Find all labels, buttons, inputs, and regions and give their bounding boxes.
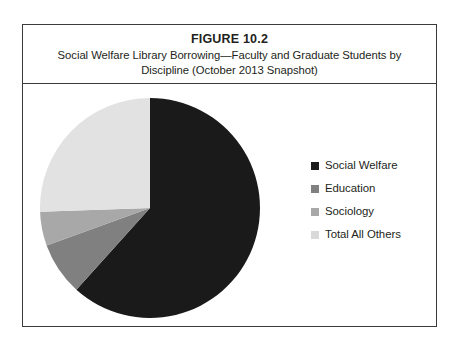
legend-item-label: Sociology	[325, 205, 374, 218]
pie-chart-svg	[37, 95, 263, 321]
chart-area: Social WelfareEducationSociologyTotal Al…	[23, 79, 436, 328]
figure-caption: Social Welfare Library Borrowing—Faculty…	[39, 48, 420, 77]
legend-item-label: Total All Others	[325, 228, 401, 241]
figure-title-block: FIGURE 10.2 Social Welfare Library Borro…	[23, 25, 436, 84]
legend-item-label: Education	[325, 182, 375, 195]
pie-chart	[37, 95, 263, 321]
legend-item: Education	[311, 182, 401, 195]
legend-item: Total All Others	[311, 228, 401, 241]
chart-legend: Social WelfareEducationSociologyTotal Al…	[311, 159, 401, 241]
legend-item: Social Welfare	[311, 159, 401, 172]
pie-slice	[40, 98, 150, 212]
legend-item-label: Social Welfare	[325, 159, 398, 172]
square-swatch-icon	[311, 185, 319, 193]
square-swatch-icon	[311, 231, 319, 239]
figure-frame: FIGURE 10.2 Social Welfare Library Borro…	[22, 24, 437, 327]
legend-item: Sociology	[311, 205, 401, 218]
pie-slice-group	[40, 98, 260, 318]
square-swatch-icon	[311, 162, 319, 170]
figure-number: FIGURE 10.2	[39, 32, 420, 47]
square-swatch-icon	[311, 208, 319, 216]
